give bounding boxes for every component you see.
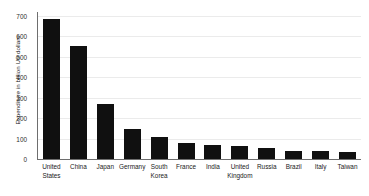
bar [312, 151, 329, 159]
bar [285, 151, 302, 159]
bar [178, 143, 195, 159]
bar [70, 46, 87, 159]
x-axis-tick-label-line2: Kingdom [223, 172, 257, 181]
x-axis-tick-label-line1: Russia [257, 163, 277, 170]
x-axis-tick-label-line1: China [70, 163, 87, 170]
x-axis-tick-label-line1: Taiwan [338, 163, 358, 170]
y-axis-tick-label: 0 [0, 156, 27, 163]
x-axis-tick-label-line2: Korea [142, 172, 176, 181]
x-axis-tick-label-line1: South [151, 163, 168, 170]
y-axis-tick-label: 300 [0, 94, 27, 101]
y-axis-tick-label: 400 [0, 74, 27, 81]
gridline [38, 36, 361, 37]
bar [43, 19, 60, 159]
x-axis-tick-label-line1: India [206, 163, 220, 170]
bar [258, 148, 275, 159]
x-axis-tick-label-line1: Japan [97, 163, 114, 170]
bar-chart: Expenditure in billion US dollars 010020… [0, 0, 369, 196]
bar [204, 145, 221, 159]
y-axis-tick-label: 500 [0, 53, 27, 60]
x-axis-tick-label-line1: Italy [315, 163, 327, 170]
y-axis-tick-label: 600 [0, 33, 27, 40]
x-axis-tick-label-line1: Brazil [286, 163, 302, 170]
x-axis-tick-label-line1: United [42, 163, 60, 170]
x-axis-tick-label-line1: United [231, 163, 249, 170]
gridline [38, 16, 361, 17]
y-axis-tick-label: 200 [0, 115, 27, 122]
bar [339, 152, 356, 159]
bar [231, 146, 248, 159]
plot-area: 0100200300400500600700 [38, 16, 361, 159]
x-axis-tick-label-line2: States [34, 172, 68, 181]
bar [97, 104, 114, 159]
x-axis-tick-label-line1: France [176, 163, 196, 170]
y-axis-tick-label: 100 [0, 135, 27, 142]
y-axis-tick-label: 700 [0, 13, 27, 20]
bar [151, 137, 168, 159]
bar [124, 129, 141, 159]
x-axis-tick-label: Taiwan [331, 163, 365, 172]
x-axis-line [37, 159, 361, 160]
